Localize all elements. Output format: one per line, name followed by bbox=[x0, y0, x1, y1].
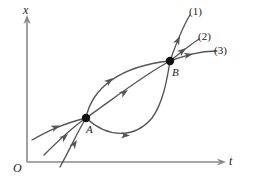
incoming-curve-upper bbox=[32, 118, 86, 140]
connecting-curves-group bbox=[86, 61, 170, 133]
node-b-label: B bbox=[172, 67, 179, 78]
curve-a-to-b-lower-dip bbox=[86, 61, 170, 133]
node-b-dot bbox=[166, 57, 174, 65]
arrowhead-branch-1 bbox=[173, 35, 183, 46]
arrowhead-incoming-middle bbox=[59, 131, 70, 142]
x-axis-label: t bbox=[229, 155, 232, 167]
figure-canvas bbox=[0, 0, 255, 185]
node-a-label: A bbox=[86, 124, 93, 135]
branch-label-2: (2) bbox=[198, 31, 211, 42]
trajectory-figure: x t O A B (1) (2) (3) bbox=[0, 0, 255, 185]
arrowhead-branch-3 bbox=[184, 51, 194, 59]
branch-label-3: (3) bbox=[214, 45, 227, 56]
origin-label: O bbox=[13, 162, 22, 174]
y-axis-label: x bbox=[23, 4, 28, 16]
branch-label-1: (1) bbox=[189, 6, 202, 17]
node-a-dot bbox=[82, 114, 90, 122]
incoming-curves-group bbox=[32, 118, 86, 167]
arrowhead-middle-line bbox=[119, 87, 130, 97]
arrowheads-group bbox=[50, 35, 193, 150]
arrowhead-incoming-upper bbox=[50, 122, 61, 131]
